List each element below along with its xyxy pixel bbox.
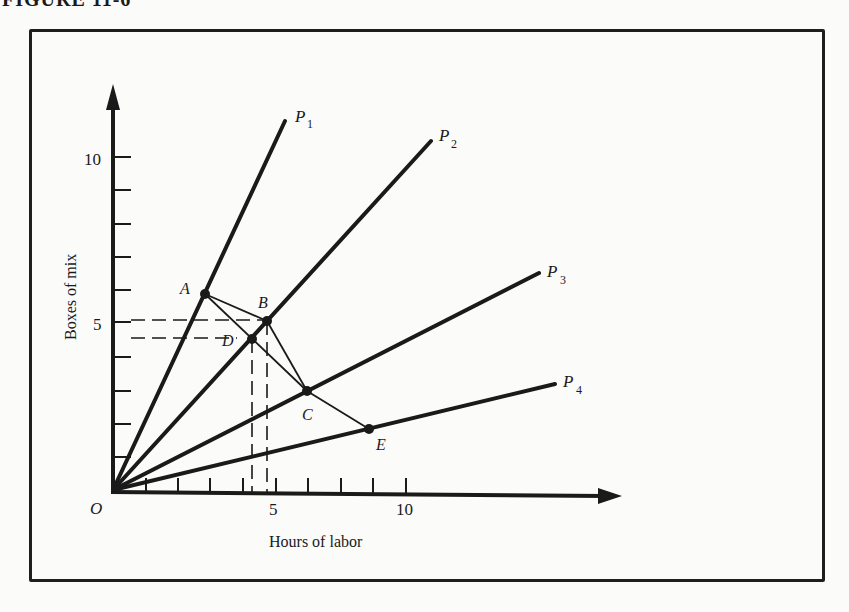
point-c bbox=[302, 386, 312, 396]
ray-label-p4: P 4 bbox=[562, 372, 582, 397]
x-axis-title: Hours of labor bbox=[269, 533, 363, 550]
point-label-d: D bbox=[221, 332, 234, 349]
x-axis-arrow-icon bbox=[598, 488, 622, 504]
y-tick-label-10: 10 bbox=[84, 150, 101, 169]
ray-label-p3: P 3 bbox=[546, 262, 566, 287]
x-axis bbox=[111, 492, 605, 496]
point-d bbox=[247, 334, 257, 344]
isoquant-diagram: 10 5 5 10 O Hours of labor Boxes of mix … bbox=[0, 0, 849, 612]
point-label-e: E bbox=[375, 436, 386, 453]
point-label-c: C bbox=[302, 406, 313, 423]
y-axis-arrow-icon bbox=[106, 84, 120, 110]
ray-label-p1: P 1 bbox=[294, 107, 313, 131]
svg-text:P: P bbox=[294, 107, 305, 126]
svg-text:4: 4 bbox=[576, 383, 582, 397]
y-axis-title: Boxes of mix bbox=[62, 254, 79, 340]
y-ticks bbox=[113, 157, 131, 457]
x-tick-label-10: 10 bbox=[396, 500, 413, 519]
point-label-a: A bbox=[179, 280, 190, 297]
svg-text:3: 3 bbox=[560, 273, 566, 287]
svg-text:P: P bbox=[546, 262, 557, 281]
x-tick-label-5: 5 bbox=[269, 500, 278, 519]
svg-text:2: 2 bbox=[451, 137, 457, 151]
point-a bbox=[200, 289, 210, 299]
ray-p3 bbox=[113, 273, 539, 490]
origin-label: O bbox=[90, 499, 102, 518]
point-b bbox=[262, 316, 272, 326]
rays bbox=[113, 121, 555, 490]
point-e bbox=[364, 424, 374, 434]
points bbox=[200, 289, 374, 434]
y-tick-label-5: 5 bbox=[93, 315, 102, 334]
ray-label-p2: P 2 bbox=[438, 126, 457, 151]
svg-text:P: P bbox=[562, 372, 573, 391]
svg-text:1: 1 bbox=[307, 117, 313, 131]
svg-text:P: P bbox=[438, 126, 449, 145]
point-label-b: B bbox=[258, 294, 268, 311]
ray-p4 bbox=[113, 384, 555, 490]
